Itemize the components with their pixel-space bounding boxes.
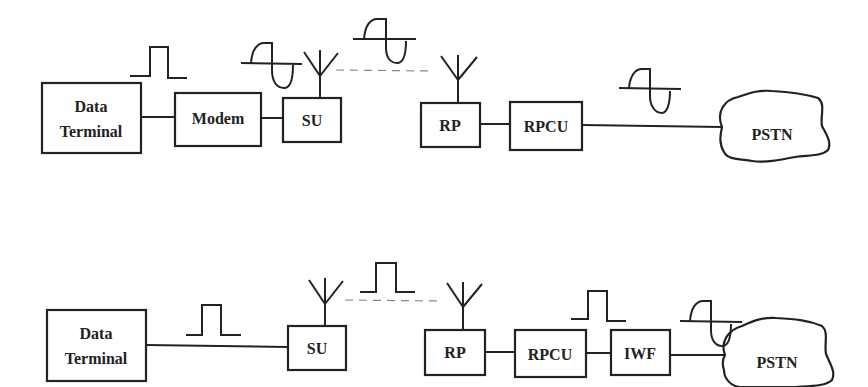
rpcu-label: RPCU	[524, 118, 569, 135]
top-rpcu: RPCU	[510, 102, 582, 150]
radio-link	[336, 70, 432, 71]
link-terminal-su	[146, 345, 288, 347]
rp-label: RP	[439, 117, 461, 134]
pulse-signal-icon	[130, 47, 187, 78]
diagram-canvas: Data Terminal Modem SU RP	[0, 0, 868, 387]
bottom-rp: RP	[425, 282, 485, 375]
top-pstn-cloud: PSTN	[720, 91, 829, 162]
link-rpcu-pstn	[582, 125, 722, 127]
antenna-icon	[441, 55, 477, 103]
sine-signal-icon	[241, 43, 302, 88]
data-terminal-label-line2: Terminal	[60, 123, 123, 140]
data-terminal-label-line1: Data	[75, 98, 108, 115]
pstn-label: PSTN	[752, 126, 793, 143]
top-modem: Modem	[175, 93, 261, 146]
top-data-terminal: Data Terminal	[42, 83, 141, 153]
rp-label: RP	[444, 344, 466, 361]
data-terminal-label-line1: Data	[80, 325, 113, 342]
bottom-pstn-cloud: PSTN	[723, 318, 834, 387]
pulse-signal-icon	[360, 263, 415, 292]
su-label: SU	[302, 112, 323, 129]
sine-signal-icon	[619, 69, 681, 113]
bottom-data-terminal: Data Terminal	[47, 310, 146, 381]
iwf-label: IWF	[624, 345, 656, 362]
pulse-signal-icon	[186, 305, 241, 335]
bottom-su: SU	[288, 278, 346, 370]
bottom-rpcu: RPCU	[515, 330, 586, 377]
modem-label: Modem	[192, 110, 245, 127]
rpcu-label: RPCU	[528, 346, 573, 363]
top-rp: RP	[421, 55, 480, 147]
su-label: SU	[307, 340, 328, 357]
antenna-icon	[304, 50, 338, 98]
antenna-icon	[309, 278, 343, 326]
top-diagram: Data Terminal Modem SU RP	[42, 19, 829, 162]
sine-signal-icon	[353, 19, 416, 63]
bottom-diagram: Data Terminal SU RP	[47, 263, 833, 387]
antenna-icon	[447, 282, 482, 330]
radio-link	[345, 300, 440, 301]
pulse-signal-icon	[571, 291, 626, 321]
data-terminal-label-line2: Terminal	[65, 350, 128, 367]
pstn-label: PSTN	[757, 354, 798, 371]
bottom-iwf: IWF	[611, 330, 670, 375]
